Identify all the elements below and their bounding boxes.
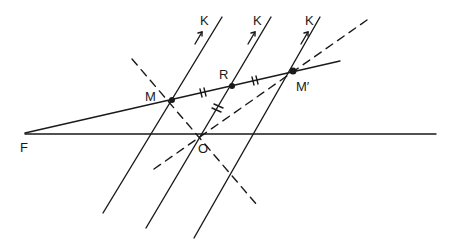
parallel-line-1 (103, 17, 222, 213)
label-k-2: K (253, 13, 262, 28)
label-k-3: K (305, 13, 314, 28)
point-m (169, 97, 175, 103)
geometry-figure: F M R M′ O K K K (0, 0, 457, 251)
point-m-prime (290, 68, 297, 75)
diagram-canvas: F M R M′ O K K K (0, 0, 457, 251)
label-f: F (20, 140, 28, 155)
dashed-line-m-o (132, 59, 257, 205)
parallel-line-2 (146, 17, 271, 228)
k-arrow-icon-2 (248, 32, 255, 44)
label-o: O (198, 141, 208, 156)
k-arrow-icon-1 (195, 32, 202, 44)
label-k-1: K (200, 13, 209, 28)
label-m: M (145, 89, 156, 104)
k-arrow-icon-3 (301, 32, 308, 44)
point-r (229, 83, 235, 89)
label-r: R (219, 67, 228, 82)
dashed-line-o-mprime (154, 20, 367, 169)
label-m-prime: M′ (296, 79, 310, 94)
